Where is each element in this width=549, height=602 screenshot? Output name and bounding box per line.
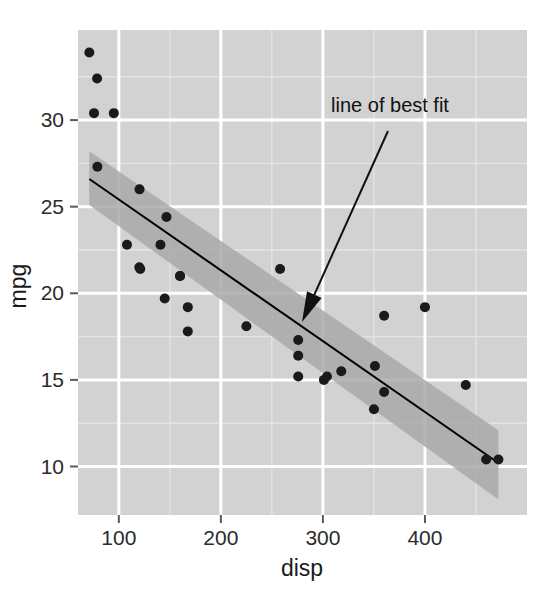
data-point [336,366,346,376]
y-axis-tick-label: 15 [41,368,64,391]
data-point [92,74,102,84]
x-axis-tick-label: 300 [305,526,340,549]
data-point [293,335,303,345]
data-point [122,240,132,250]
data-point [135,184,145,194]
data-point [481,455,491,465]
data-point [161,212,171,222]
chart-figure: 100200300400 1015202530 disp mpg line of… [0,0,549,602]
data-point [379,387,389,397]
data-point [84,48,94,58]
data-point [109,108,119,118]
data-point [135,264,145,274]
data-point [369,404,379,414]
y-axis-tick-label: 25 [41,195,64,218]
data-point [275,264,285,274]
data-point [293,371,303,381]
x-axis-tick-label: 200 [203,526,238,549]
data-point [420,302,430,312]
data-point [183,326,193,336]
x-axis-tick-label: 400 [407,526,442,549]
annotation-label: line of best fit [331,94,449,116]
data-point [241,321,251,331]
data-point [319,375,329,385]
data-point [155,240,165,250]
y-axis-tick-label: 30 [41,108,64,131]
data-point [92,162,102,172]
data-point [160,293,170,303]
data-point [293,351,303,361]
x-axis-title: disp [281,555,323,581]
data-point [461,380,471,390]
x-axis-tick-label: 100 [101,526,136,549]
data-point [183,302,193,312]
data-point [370,361,380,371]
data-point [379,311,389,321]
y-axis-title: mpg [5,264,31,309]
scatter-plot-svg: 100200300400 1015202530 disp mpg line of… [0,0,549,602]
data-point [493,455,503,465]
data-point [89,108,99,118]
y-axis-tick-label: 20 [41,281,64,304]
data-point [175,271,185,281]
y-axis-tick-label: 10 [41,455,64,478]
